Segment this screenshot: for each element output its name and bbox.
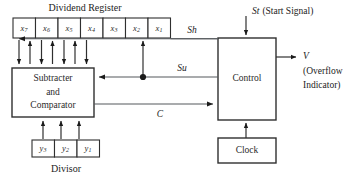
subtracter-label-line2: and [46,87,60,97]
cell-sub-y3: 3 [42,147,46,153]
cell-sub-x6: 6 [47,27,50,33]
clock-label: Clock [236,145,259,155]
c-label: C [157,109,164,119]
cell-sub-x3: 3 [113,27,117,33]
svg-text:St(Start Signal): St(Start Signal) [252,6,313,17]
cell-sub-x5: 5 [69,27,72,33]
dividend-register-title: Dividend Register [48,2,122,13]
su-junction-dot [140,74,146,80]
subtracter-label-line3: Comparator [30,100,76,110]
divisor-register-title: Divisor [51,163,82,174]
subtracter-to-register-up-wires [30,41,75,64]
v-label: V [303,51,310,61]
sh-label: Sh [187,25,197,35]
cell-sub-x2: 2 [137,27,140,33]
v-description-line2: Indicator) [303,80,340,91]
su-label: Su [177,63,187,73]
cell-sub-y2: 2 [66,147,69,153]
st-label: St [252,6,260,16]
cell-sub-x4: 4 [92,27,95,33]
cell-sub-x1: 1 [159,27,162,33]
cell-sub-y1: 1 [88,147,91,153]
st-description: (Start Signal) [262,6,313,17]
divider-block-diagram: x7 x6 x5 x4 x3 x2 x1 y3 y2 y1 Dividend R… [0,0,356,181]
control-label: Control [232,73,261,83]
v-description-line1: (Overflow [303,66,343,77]
divisor-to-subtracter-wires [43,121,79,139]
subtracter-label-line1: Subtracter [33,73,73,83]
